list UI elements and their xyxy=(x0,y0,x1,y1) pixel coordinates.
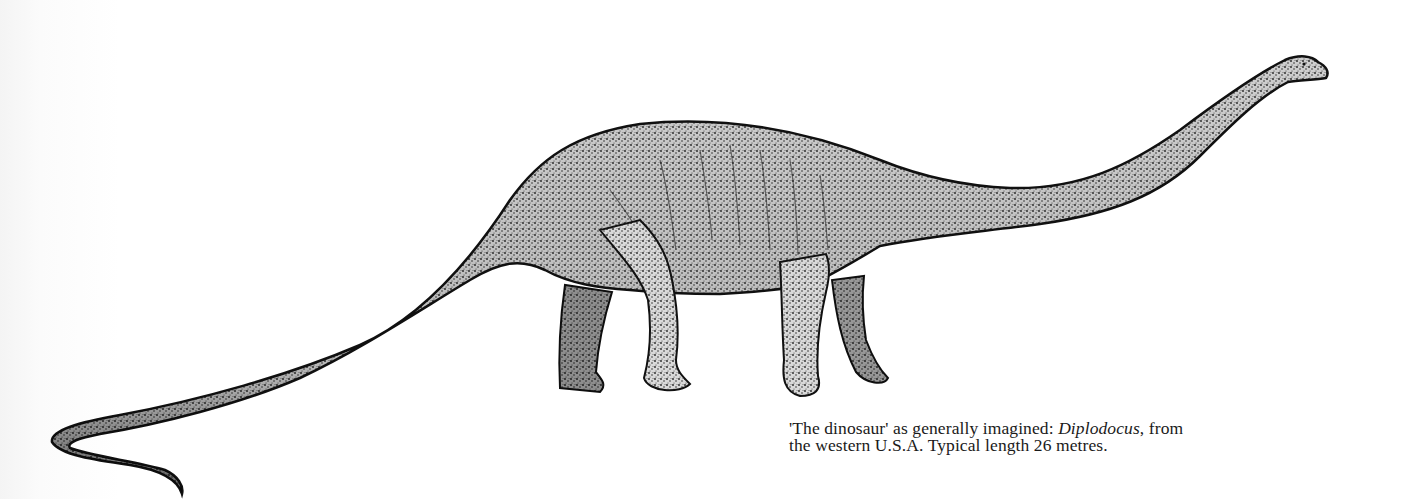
caption-line-2: the western U.S.A. Typical length 26 met… xyxy=(789,437,1349,454)
figure-caption: 'The dinosaur' as generally imagined: Di… xyxy=(789,420,1349,454)
page: 'The dinosaur' as generally imagined: Di… xyxy=(0,0,1403,499)
caption-text: , from xyxy=(1140,418,1183,438)
eye-icon xyxy=(1302,62,1305,65)
